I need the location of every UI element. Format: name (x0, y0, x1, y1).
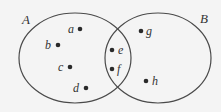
element-label: f (117, 62, 122, 76)
elements-layer: abcdefgh (45, 22, 158, 95)
element-e: e (110, 43, 124, 57)
element-d: d (73, 81, 88, 95)
element-h: h (144, 74, 158, 88)
element-c: c (58, 60, 72, 74)
element-b: b (45, 38, 60, 52)
element-a: a (68, 22, 82, 36)
element-dot-icon (110, 67, 115, 72)
element-g: g (139, 24, 152, 38)
venn-diagram: AB abcdefgh (0, 0, 221, 112)
set-b-outline (105, 13, 211, 103)
element-label: c (58, 60, 64, 74)
sets-layer: AB (19, 11, 211, 103)
element-dot-icon (78, 27, 83, 32)
set-b-label: B (200, 11, 208, 26)
element-dot-icon (144, 79, 149, 84)
venn-canvas: AB abcdefgh (0, 0, 221, 112)
element-label: g (146, 24, 152, 38)
element-dot-icon (84, 86, 89, 91)
element-label: d (73, 81, 80, 95)
set-a-label: A (21, 12, 30, 27)
element-dot-icon (56, 43, 61, 48)
element-f: f (110, 62, 122, 76)
element-dot-icon (68, 65, 73, 70)
element-dot-icon (139, 29, 144, 34)
element-label: a (68, 22, 74, 36)
element-label: e (118, 43, 124, 57)
element-label: b (45, 38, 51, 52)
element-dot-icon (110, 48, 115, 53)
element-label: h (152, 74, 158, 88)
